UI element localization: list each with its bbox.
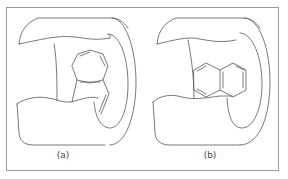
diagram-canvas bbox=[0, 0, 288, 179]
panel-b-label: (b) bbox=[195, 150, 225, 160]
panel-b-molecule-naphthalene bbox=[194, 63, 246, 97]
panel-a-label: (a) bbox=[48, 150, 78, 160]
panel-a-molecule bbox=[72, 50, 109, 114]
panel-b-cylinder bbox=[153, 18, 270, 145]
